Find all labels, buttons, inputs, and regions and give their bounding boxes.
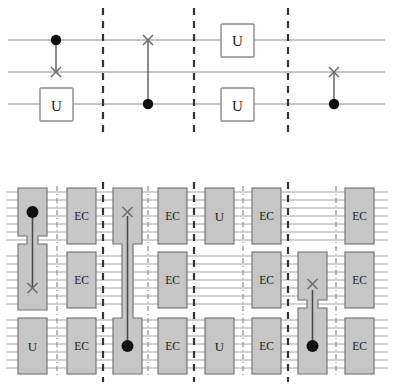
s4-ec-row3[interactable]: EC bbox=[345, 318, 374, 374]
s1-ec-row1-label: EC bbox=[74, 210, 89, 222]
top-control-dot-2[interactable] bbox=[143, 99, 153, 109]
top-control-dot-1[interactable] bbox=[51, 35, 61, 45]
s3-ec-row3[interactable]: EC bbox=[252, 318, 281, 374]
s4-control-dot[interactable] bbox=[307, 340, 319, 352]
top-u-gate-3-label: U bbox=[232, 98, 243, 114]
top-control-dot-3[interactable] bbox=[329, 99, 339, 109]
s3-u-row1[interactable]: U bbox=[205, 188, 234, 244]
s4-ec-row1-label: EC bbox=[352, 210, 367, 222]
s3-u-row3[interactable]: U bbox=[205, 318, 234, 374]
s1-u-label: U bbox=[28, 339, 38, 354]
s1-ec-row3-label: EC bbox=[74, 340, 89, 352]
s1-ec-row2[interactable]: EC bbox=[67, 252, 96, 308]
s1-ec-row2-label: EC bbox=[74, 274, 89, 286]
figure-root: U U U bbox=[0, 0, 393, 389]
s4-ec-row1[interactable]: EC bbox=[345, 188, 374, 244]
s2-control-dot[interactable] bbox=[122, 340, 134, 352]
top-u-gate-2[interactable]: U bbox=[221, 24, 254, 57]
s3-ec-row2[interactable]: EC bbox=[252, 252, 281, 308]
top-column-1: U bbox=[40, 35, 73, 121]
bottom-wires bbox=[6, 192, 388, 368]
s1-u-block[interactable]: U bbox=[18, 318, 47, 374]
s2-ec-row1[interactable]: EC bbox=[158, 188, 187, 244]
top-u-gate-1-label: U bbox=[51, 98, 62, 114]
s4-ec-row3-label: EC bbox=[352, 340, 367, 352]
s2-ec-row2[interactable]: EC bbox=[158, 252, 187, 308]
s3-u-row1-label: U bbox=[215, 209, 225, 224]
top-u-gate-1[interactable]: U bbox=[40, 88, 73, 121]
s3-u-row3-label: U bbox=[215, 339, 225, 354]
quantum-circuit-figure: U U U bbox=[0, 0, 393, 389]
s3-ec-row1-label: EC bbox=[259, 210, 274, 222]
bottom-circuit: U EC EC EC bbox=[6, 182, 388, 382]
s3-ec-row1[interactable]: EC bbox=[252, 188, 281, 244]
s3-ec-row2-label: EC bbox=[259, 274, 274, 286]
s3-ec-row3-label: EC bbox=[259, 340, 274, 352]
s2-ec-row2-label: EC bbox=[165, 274, 180, 286]
top-barriers bbox=[103, 8, 288, 132]
top-u-gate-3[interactable]: U bbox=[221, 88, 254, 121]
s2-ec-row1-label: EC bbox=[165, 210, 180, 222]
s1-ec-row1[interactable]: EC bbox=[67, 188, 96, 244]
top-u-gate-2-label: U bbox=[232, 33, 243, 49]
s4-ec-row2[interactable]: EC bbox=[345, 252, 374, 308]
s2-ec-row3[interactable]: EC bbox=[158, 318, 187, 374]
s2-ec-row3-label: EC bbox=[165, 340, 180, 352]
top-column-4 bbox=[329, 67, 339, 109]
s1-control-dot[interactable] bbox=[27, 206, 39, 218]
s1-ec-row3[interactable]: EC bbox=[67, 318, 96, 374]
s4-ec-row2-label: EC bbox=[352, 274, 367, 286]
bottom-sub-barriers bbox=[57, 186, 336, 376]
top-circuit: U U U bbox=[8, 8, 385, 132]
